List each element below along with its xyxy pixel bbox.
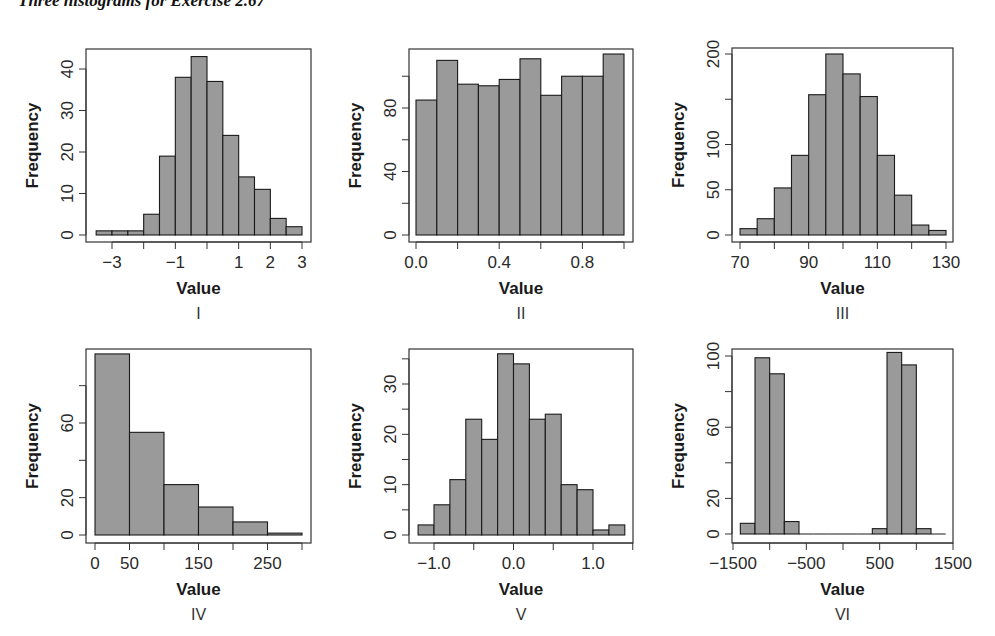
histogram-bar <box>774 188 791 235</box>
histogram-bar <box>418 525 434 535</box>
histogram-bar <box>466 419 482 535</box>
histogram-bar <box>784 522 799 534</box>
x-tick-label: −500 <box>787 554 825 573</box>
x-tick-label: −3 <box>102 253 121 272</box>
histogram-bar <box>843 74 860 235</box>
histogram-bar <box>916 529 931 534</box>
y-tick-label: 80 <box>381 99 400 118</box>
x-axis: 0.00.40.8 <box>404 242 624 272</box>
x-tick-label: 1.0 <box>581 554 605 573</box>
panel-label: II <box>517 305 526 322</box>
y-axis-title: Frequency <box>23 102 42 189</box>
histogram-bar <box>902 365 917 534</box>
y-tick-label: 60 <box>704 418 723 437</box>
x-tick-label: 110 <box>864 253 891 272</box>
y-tick-label: 10 <box>381 475 400 494</box>
x-tick-label: 70 <box>731 253 750 272</box>
histogram-bar <box>458 84 479 235</box>
histogram-bar <box>792 155 809 235</box>
histogram-bar <box>95 354 130 535</box>
x-tick-label: 3 <box>297 253 306 272</box>
y-tick-label: 100 <box>704 342 723 370</box>
x-axis-title: Value <box>176 580 220 599</box>
bars <box>418 354 625 535</box>
y-tick-label: 10 <box>58 184 77 203</box>
y-tick-label: 50 <box>704 180 723 199</box>
histogram-bar <box>207 81 223 235</box>
histogram-panel-v: −1.00.01.00102030ValueFrequencyV <box>346 349 633 623</box>
histogram-figure: −3−1123010203040ValueFrequencyI 0.00.40.… <box>0 0 995 636</box>
y-tick-label: 0 <box>58 530 77 539</box>
histogram-bar <box>96 231 112 235</box>
x-tick-label: −1500 <box>709 554 757 573</box>
bars <box>416 54 624 235</box>
x-axis: 050150250 <box>90 543 302 573</box>
histogram-bar <box>582 76 603 235</box>
histogram-bar <box>545 414 561 535</box>
histogram-bar <box>740 523 755 534</box>
histogram-bar <box>541 95 562 235</box>
y-axis-title: Frequency <box>346 102 365 189</box>
x-tick-label: 1500 <box>934 554 972 573</box>
histogram-bar <box>603 54 624 235</box>
histogram-bar <box>482 439 498 535</box>
x-axis-title: Value <box>176 279 220 298</box>
histogram-bar <box>887 352 902 534</box>
y-tick-label: 60 <box>58 414 77 433</box>
x-tick-label: 250 <box>253 554 281 573</box>
histogram-bar <box>175 77 191 235</box>
y-tick-label: 30 <box>58 101 77 120</box>
panel-label: V <box>516 606 527 623</box>
y-axis-title: Frequency <box>669 402 688 489</box>
x-tick-label: 0.0 <box>404 253 428 272</box>
histogram-bar <box>520 59 541 235</box>
y-axis: 010203040 <box>58 60 86 240</box>
histogram-bar <box>872 529 887 534</box>
histogram-bar <box>233 522 268 535</box>
y-tick-label: 20 <box>704 489 723 508</box>
histogram-bar <box>450 480 466 535</box>
histogram-bar <box>809 95 826 235</box>
histogram-bar <box>239 177 255 235</box>
histogram-bar <box>434 505 450 535</box>
y-tick-label: 0 <box>381 230 400 239</box>
x-tick-label: −1.0 <box>417 554 451 573</box>
y-tick-label: 0 <box>381 530 400 539</box>
histogram-panel-i: −3−1123010203040ValueFrequencyI <box>23 49 311 322</box>
x-tick-label: −1 <box>166 253 185 272</box>
histogram-bar <box>529 419 545 535</box>
histogram-bar <box>860 97 877 235</box>
histogram-bar <box>514 364 530 535</box>
y-tick-label: 20 <box>58 488 77 507</box>
bars <box>740 352 945 534</box>
histogram-bar <box>130 432 165 535</box>
histogram-bar <box>929 230 946 235</box>
y-tick-label: 0 <box>58 230 77 239</box>
y-tick-label: 20 <box>58 143 77 162</box>
bars <box>96 57 302 235</box>
histogram-bar <box>499 79 520 235</box>
histogram-bar <box>562 76 583 235</box>
histogram-panel-ii: 0.00.40.804080ValueFrequencyII <box>346 49 633 322</box>
histogram-panel-iii: 7090110130050100200ValueFrequencyIII <box>669 40 960 322</box>
x-tick-label: 0.8 <box>571 253 595 272</box>
histogram-bar <box>255 189 271 235</box>
y-axis-title: Frequency <box>346 402 365 489</box>
x-tick-label: 130 <box>932 253 960 272</box>
histogram-bar <box>740 229 757 235</box>
x-tick-label: 1 <box>234 253 243 272</box>
y-tick-label: 30 <box>381 375 400 394</box>
histogram-bar <box>437 60 458 235</box>
bars <box>95 354 302 535</box>
y-axis: 04080 <box>381 76 409 239</box>
x-axis-title: Value <box>820 279 864 298</box>
y-axis-title: Frequency <box>669 101 688 188</box>
x-tick-label: 0 <box>90 554 99 573</box>
histogram-panel-vi: −1500−500500150002060100ValueFrequencyVI <box>669 342 972 623</box>
histogram-bar <box>268 533 303 535</box>
histogram-bar <box>160 156 176 235</box>
panel-label: IV <box>191 606 206 623</box>
histogram-bar <box>164 485 199 535</box>
y-axis-title: Frequency <box>23 402 42 489</box>
histogram-panel-iv: 05015025002060ValueFrequencyIV <box>23 349 311 623</box>
